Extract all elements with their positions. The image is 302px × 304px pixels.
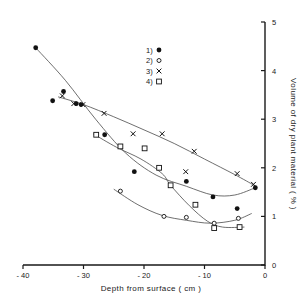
x-tick-label: 0 — [263, 271, 267, 280]
data-point-filled-circle-series-1 — [50, 98, 55, 103]
y-tick-label: 2 — [272, 164, 276, 173]
data-point-filled-circle-series-1 — [184, 179, 189, 184]
y-tick-label: 3 — [272, 115, 276, 124]
data-point-open-circle-series-2 — [236, 216, 240, 220]
data-point-open-square-series-4 — [212, 226, 217, 231]
x-tick-label: - 30 — [77, 271, 90, 280]
data-point-open-square-series-4 — [237, 225, 242, 230]
data-point-open-circle-series-2 — [212, 221, 216, 225]
chart-plot-area: - 40- 30- 20- 100 012345 Depth from surf… — [0, 0, 302, 304]
data-point-open-square-series-4 — [142, 146, 147, 151]
data-point-open-square-series-4 — [193, 202, 198, 207]
data-point-filled-circle-series-1 — [102, 132, 107, 137]
series-2-curve — [114, 189, 252, 223]
legend-label-1: 1) — [146, 46, 153, 55]
data-point-filled-circle-legend-1 — [157, 48, 162, 53]
data-point-filled-circle-series-1 — [132, 169, 137, 174]
x-tick-label: - 10 — [198, 271, 211, 280]
data-point-filled-circle-series-1 — [33, 45, 38, 50]
data-point-open-circle-series-2 — [162, 214, 166, 218]
axes-group — [23, 22, 265, 269]
y-axis-title: Volume of dry plant material ( % ) — [289, 78, 298, 210]
x-tick-label: - 20 — [138, 271, 151, 280]
chart-figure: - 40- 30- 20- 100 012345 Depth from surf… — [0, 0, 302, 304]
data-point-open-circle-legend-2 — [157, 59, 161, 63]
y-tick-label: 5 — [272, 18, 276, 27]
series-3-curve — [58, 97, 254, 185]
data-point-open-square-series-4 — [94, 132, 99, 137]
x-tick-label: - 40 — [17, 271, 30, 280]
data-point-open-square-series-4 — [157, 165, 162, 170]
data-point-filled-circle-series-1 — [235, 206, 240, 211]
x-axis-tick-labels: - 40- 30- 20- 100 — [17, 271, 268, 280]
data-point-open-square-series-4 — [168, 183, 173, 188]
data-point-open-square-series-4 — [118, 144, 123, 149]
y-axis-tick-labels: 012345 — [272, 18, 276, 270]
legend-label-4: 4) — [146, 77, 153, 86]
legend-label-2: 2) — [146, 56, 153, 65]
y-tick-label: 1 — [272, 212, 276, 221]
y-tick-label: 0 — [272, 261, 276, 270]
data-point-filled-circle-series-1 — [61, 89, 66, 94]
data-point-filled-circle-series-1 — [74, 101, 79, 106]
y-tick-label: 4 — [272, 67, 276, 76]
data-point-open-circle-series-2 — [118, 189, 122, 193]
legend-label-3: 3) — [146, 67, 153, 76]
axis-spine — [23, 22, 265, 265]
data-point-open-square-legend-4 — [157, 79, 162, 84]
chart-legend: 1)2)3)4) — [146, 46, 161, 87]
data-point-open-circle-series-2 — [184, 215, 188, 219]
x-axis-title: Depth from surface ( cm ) — [101, 284, 202, 293]
data-point-filled-circle-series-1 — [211, 195, 216, 200]
